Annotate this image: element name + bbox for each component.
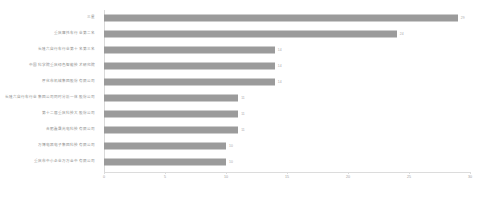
bar-value-label: 24 (400, 32, 404, 35)
bar-row: 万博电器电子集团科技有限公司10 (0, 138, 491, 154)
category-label: 长隆六自行车行业第十名第三名 (38, 48, 95, 52)
bar (104, 31, 397, 38)
category-label: 三星 (87, 16, 95, 20)
bar-value-label: 10 (229, 144, 233, 147)
x-tick-label: 10 (224, 176, 228, 180)
bar-row: 长隆六自行车行业第十名第三名14 (0, 42, 491, 58)
category-label: 第十二届重庆科技大股份公司 (42, 112, 95, 116)
bar-value-label: 10 (229, 160, 233, 163)
x-tick-mark (287, 172, 288, 174)
bar-row: 重庆市中小企业万万金中有限公司10 (0, 154, 491, 170)
bar-container: 11 (104, 95, 245, 102)
x-tick-label: 20 (346, 176, 350, 180)
bar (104, 15, 458, 22)
bar-row: 合肥鑫晟光电科技有限公司11 (0, 122, 491, 138)
x-tick-mark (165, 172, 166, 174)
bar (104, 127, 238, 134)
x-tick-label: 30 (468, 176, 472, 180)
bar-container: 14 (104, 63, 282, 70)
bar (104, 79, 275, 86)
bar-rows: 三星29重庆摩托车行业第二名24长隆六自行车行业第十名第三名14中国科学院重庆绿… (0, 10, 491, 170)
bar-container: 14 (104, 47, 282, 54)
x-tick-label: 5 (164, 176, 166, 180)
category-label: 中国科学院重庆绿色智能技术研究院 (29, 64, 95, 68)
x-axis-ticks: 051015202530 (0, 172, 491, 192)
bar-container: 14 (104, 79, 282, 86)
x-tick-label: 25 (407, 176, 411, 180)
bar-container: 10 (104, 159, 233, 166)
x-tick-label: 15 (285, 176, 289, 180)
bar (104, 111, 238, 118)
bar-row: 第十二届重庆科技大股份公司11 (0, 106, 491, 122)
category-label: 重庆市中小企业万万金中有限公司 (34, 160, 96, 164)
bar-value-label: 11 (241, 128, 245, 131)
category-label: 厚化市机械集团股份有限公司 (42, 80, 95, 84)
bar-row: 三星29 (0, 10, 491, 26)
x-tick-mark (470, 172, 471, 174)
bar-container: 29 (104, 15, 465, 22)
bar-row: 重庆摩托车行业第二名24 (0, 26, 491, 42)
x-tick-mark (409, 172, 410, 174)
bar (104, 95, 238, 102)
x-tick-label: 0 (103, 176, 105, 180)
bar-value-label: 14 (278, 48, 282, 51)
bar-row: 中国科学院重庆绿色智能技术研究院14 (0, 58, 491, 74)
bar (104, 47, 275, 54)
bar (104, 63, 275, 70)
x-tick-mark (348, 172, 349, 174)
bar-value-label: 29 (461, 16, 465, 19)
bar-chart: 三星29重庆摩托车行业第二名24长隆六自行车行业第十名第三名14中国科学院重庆绿… (0, 0, 491, 199)
bar (104, 159, 226, 166)
bar-value-label: 14 (278, 64, 282, 67)
bar-container: 11 (104, 111, 245, 118)
bar (104, 143, 226, 150)
x-tick-mark (226, 172, 227, 174)
bar-value-label: 11 (241, 96, 245, 99)
bar-value-label: 14 (278, 80, 282, 83)
bar-row: 厚化市机械集团股份有限公司14 (0, 74, 491, 90)
category-label: 万博电器电子集团科技有限公司 (38, 144, 95, 148)
bar-container: 11 (104, 127, 245, 134)
x-tick-mark (104, 172, 105, 174)
category-label: 合肥鑫晟光电科技有限公司 (46, 128, 95, 132)
bar-value-label: 11 (241, 112, 245, 115)
bar-row: 长隆六自行车行业集团公司同时分析一体股份公司11 (0, 90, 491, 106)
bar-container: 24 (104, 31, 404, 38)
category-label: 重庆摩托车行业第二名 (54, 32, 95, 36)
category-label: 长隆六自行车行业集团公司同时分析一体股份公司 (5, 96, 95, 100)
bar-container: 10 (104, 143, 233, 150)
